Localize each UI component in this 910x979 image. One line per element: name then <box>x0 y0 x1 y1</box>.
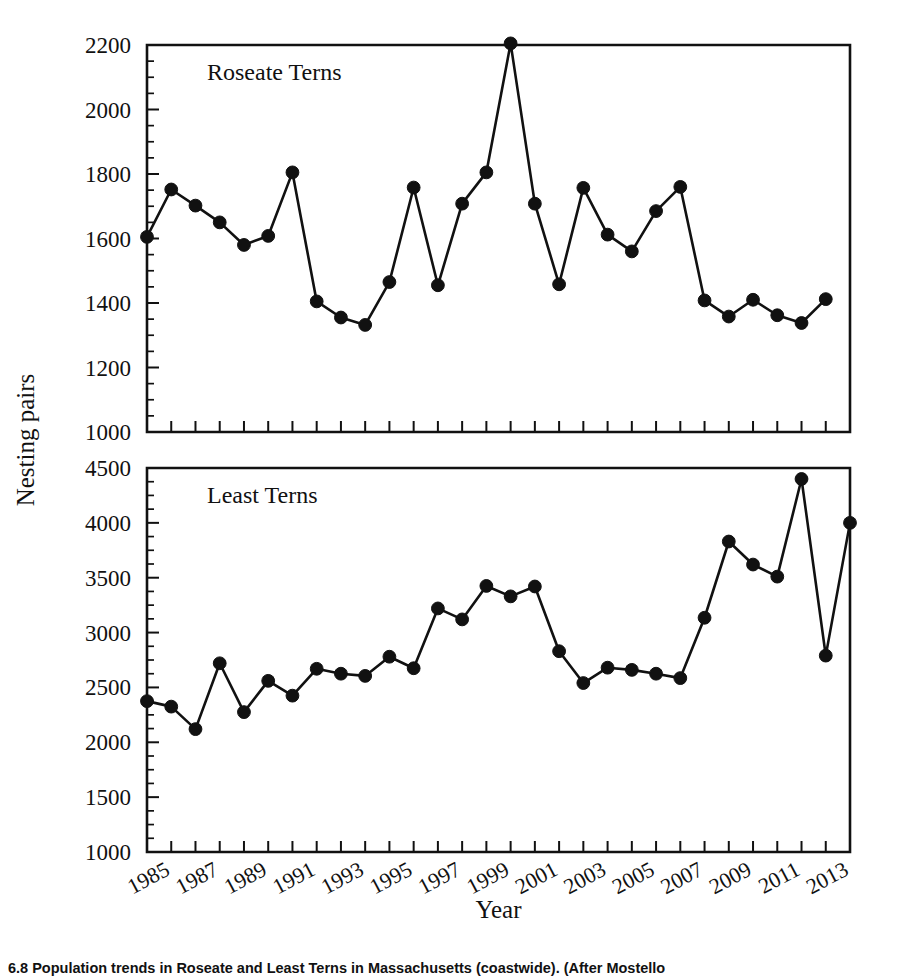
data-point-marker <box>625 663 638 676</box>
data-point-marker <box>407 662 420 675</box>
data-point-marker <box>504 37 517 50</box>
data-point-marker <box>698 611 711 624</box>
data-point-marker <box>262 674 275 687</box>
data-point-marker <box>238 706 251 719</box>
data-point-marker <box>747 558 760 571</box>
data-point-marker <box>286 689 299 702</box>
data-point-marker <box>165 183 178 196</box>
x-tick-label: 2003 <box>559 856 610 899</box>
y-tick-label: 1200 <box>85 356 131 381</box>
chart-panel-least-terns: 10001500200025003000350040004500Least Te… <box>85 456 856 865</box>
data-point-marker <box>359 319 372 332</box>
y-tick-label: 2500 <box>85 675 131 700</box>
data-point-marker <box>432 279 445 292</box>
data-point-marker <box>456 613 469 626</box>
plot-frame <box>147 468 850 852</box>
data-point-marker <box>286 166 299 179</box>
figure-container: 1000120014001600180020002200Roseate Tern… <box>0 0 910 979</box>
data-point-marker <box>601 661 614 674</box>
data-point-marker <box>383 276 396 289</box>
data-point-marker <box>771 309 784 322</box>
data-point-marker <box>528 197 541 210</box>
data-point-marker <box>238 239 251 252</box>
y-tick-label: 3000 <box>85 621 131 646</box>
data-point-marker <box>577 181 590 194</box>
y-tick-label: 1400 <box>85 291 131 316</box>
y-tick-label: 1000 <box>85 420 131 445</box>
data-point-marker <box>553 645 566 658</box>
data-point-marker <box>844 516 857 529</box>
data-point-marker <box>722 310 735 323</box>
data-point-marker <box>625 245 638 258</box>
chart-panel-roseate-terns: 1000120014001600180020002200Roseate Tern… <box>85 33 850 445</box>
data-point-marker <box>650 667 663 680</box>
y-tick-label: 4000 <box>85 511 131 536</box>
y-tick-label: 1000 <box>85 840 131 865</box>
series-line <box>147 43 826 325</box>
data-point-marker <box>407 181 420 194</box>
y-tick-label: 1600 <box>85 227 131 252</box>
data-point-marker <box>577 677 590 690</box>
data-point-marker <box>335 311 348 324</box>
y-axis-title: Nesting pairs <box>12 374 39 507</box>
data-point-marker <box>213 657 226 670</box>
data-point-marker <box>310 295 323 308</box>
x-tick-label: 1995 <box>365 856 416 899</box>
x-tick-label: 1989 <box>220 856 271 899</box>
data-point-marker <box>747 293 760 306</box>
terns-population-chart: 1000120014001600180020002200Roseate Tern… <box>0 0 910 979</box>
data-point-marker <box>795 317 808 330</box>
panel-title: Roseate Terns <box>207 59 342 85</box>
data-point-marker <box>722 535 735 548</box>
series-line <box>147 479 850 729</box>
x-axis-tick-labels: 1985198719891991199319951997199920012003… <box>123 856 852 899</box>
y-tick-label: 1500 <box>85 785 131 810</box>
x-axis-title: Year <box>475 896 522 923</box>
x-tick-label: 1993 <box>317 856 368 899</box>
data-point-marker <box>262 230 275 243</box>
data-point-marker <box>189 723 202 736</box>
y-tick-label: 4500 <box>85 456 131 481</box>
data-point-marker <box>650 205 663 218</box>
x-tick-label: 1987 <box>171 856 222 899</box>
y-tick-label: 1800 <box>85 162 131 187</box>
data-point-marker <box>528 580 541 593</box>
data-point-marker <box>698 294 711 307</box>
data-point-marker <box>771 570 784 583</box>
x-tick-label: 2011 <box>754 856 804 898</box>
data-point-marker <box>795 473 808 486</box>
panel-title: Least Terns <box>207 482 318 508</box>
x-tick-label: 1991 <box>268 856 319 899</box>
x-tick-label: 2009 <box>705 856 756 899</box>
data-point-marker <box>189 199 202 212</box>
data-point-marker <box>359 670 372 683</box>
x-tick-label: 2013 <box>802 856 853 899</box>
data-point-marker <box>165 700 178 713</box>
data-point-marker <box>432 602 445 615</box>
data-point-marker <box>213 216 226 229</box>
figure-caption: 6.8 Population trends in Roseate and Lea… <box>8 958 908 979</box>
data-point-marker <box>480 166 493 179</box>
data-point-marker <box>310 662 323 675</box>
data-point-marker <box>480 580 493 593</box>
x-tick-label: 2005 <box>608 856 659 899</box>
data-point-marker <box>674 181 687 194</box>
data-point-marker <box>456 197 469 210</box>
y-tick-label: 2000 <box>85 98 131 123</box>
data-point-marker <box>674 672 687 685</box>
data-point-marker <box>335 667 348 680</box>
data-point-marker <box>141 695 154 708</box>
x-tick-label: 1999 <box>462 856 513 899</box>
data-point-marker <box>504 590 517 603</box>
data-point-marker <box>141 230 154 243</box>
y-tick-label: 2000 <box>85 730 131 755</box>
x-tick-label: 2007 <box>656 856 707 899</box>
data-point-marker <box>601 228 614 241</box>
x-tick-label: 1997 <box>414 856 465 899</box>
y-tick-label: 2200 <box>85 33 131 58</box>
data-point-marker <box>553 278 566 291</box>
x-tick-label: 2001 <box>511 856 562 899</box>
y-tick-label: 3500 <box>85 566 131 591</box>
data-point-marker <box>819 649 832 662</box>
data-point-marker <box>383 650 396 663</box>
